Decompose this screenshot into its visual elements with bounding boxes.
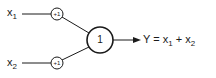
neuron-label: 1 bbox=[94, 34, 106, 46]
input-label-x1-subscript: 1 bbox=[13, 12, 17, 21]
weight-label-x1: +1 bbox=[50, 10, 64, 18]
weight-label-x2: +1 bbox=[50, 59, 64, 67]
input-label-x2: x2 bbox=[7, 57, 17, 68]
edge-x1-to-neuron bbox=[62, 17, 89, 33]
output-subscript-2: 2 bbox=[191, 39, 195, 48]
output-prefix: Y = x bbox=[143, 33, 168, 45]
input-label-x1: x1 bbox=[7, 7, 17, 18]
edge-x2-to-neuron bbox=[62, 47, 89, 60]
arrowhead-icon bbox=[133, 37, 141, 43]
output-mid: + x bbox=[173, 33, 191, 45]
input-label-x2-subscript: 2 bbox=[13, 62, 17, 71]
output-equation: Y = x1 + x2 bbox=[143, 34, 195, 45]
